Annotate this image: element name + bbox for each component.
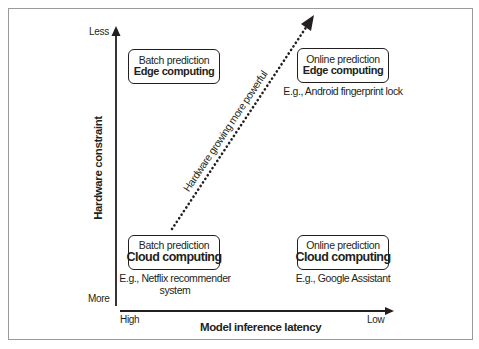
hardware-trend-arrow [172, 15, 314, 229]
quadrant-batch-edge: Batch prediction Edge computing [128, 49, 220, 84]
x-axis-left-label: High [120, 314, 139, 325]
quadrant-batch-cloud: Batch prediction Cloud computing [128, 235, 220, 270]
y-axis [112, 26, 121, 306]
x-axis-right-label: Low [367, 314, 384, 325]
quadrant-example-online-edge: E.g., Android fingerprint lock [278, 86, 408, 98]
quadrant-compute-location: Edge computing [134, 66, 215, 78]
quadrant-compute-location: Cloud computing [126, 251, 221, 264]
y-axis-arrowhead-icon [112, 26, 121, 36]
y-axis-bottom-label: More [88, 293, 110, 304]
quadrant-online-edge: Online prediction Edge computing [297, 48, 389, 83]
y-axis-top-label: Less [89, 26, 109, 37]
axes-and-arrows [0, 0, 479, 349]
quadrant-example-online-cloud: E.g., Google Assistant [278, 273, 408, 285]
y-axis-title: Hardware constraint [92, 116, 104, 220]
x-axis [120, 307, 394, 315]
quadrant-compute-location: Cloud computing [295, 251, 390, 264]
quadrant-compute-location: Edge computing [303, 65, 384, 77]
quadrant-online-cloud: Online prediction Cloud computing [297, 235, 389, 270]
trend-arrowhead-icon [301, 15, 314, 31]
x-axis-title: Model inference latency [200, 321, 321, 333]
x-axis-arrowhead-icon [385, 307, 394, 315]
quadrant-example-batch-cloud: E.g., Netflix recommender system [113, 273, 237, 296]
